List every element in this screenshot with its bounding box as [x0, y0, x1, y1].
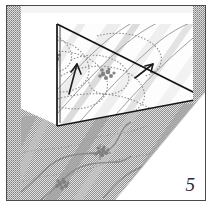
plate-frame: 5 — [6, 5, 206, 201]
edge-strip-top — [21, 6, 193, 13]
figure-plate: 5 — [0, 0, 212, 208]
figure-number: 5 — [186, 175, 196, 194]
edge-strip-right — [193, 6, 205, 102]
map-illustration — [7, 6, 205, 200]
edge-strip-left — [7, 6, 21, 200]
